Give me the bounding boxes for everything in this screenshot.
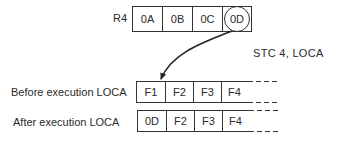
after-continuation-dashes [249, 111, 280, 132]
store-arrow [161, 31, 232, 79]
diagram-lines [0, 0, 340, 141]
before-continuation-dashes [248, 82, 279, 103]
